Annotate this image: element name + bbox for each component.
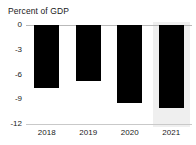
x-tick-label: 2019 (68, 128, 110, 138)
x-tick-label: 2020 (109, 128, 151, 138)
x-axis-tick-labels: 2018201920202021 (26, 128, 192, 142)
y-tick-label: 0 (0, 21, 22, 29)
y-tick-label: -6 (0, 71, 22, 79)
x-axis-line (26, 124, 192, 125)
y-tick-label: -9 (0, 95, 22, 103)
x-tick-label: 2021 (151, 128, 193, 138)
chart-container: Percent of GDP 0-3-6-9-12 20182019202020… (0, 0, 196, 145)
chart-title: Percent of GDP (8, 6, 69, 16)
y-axis-tick-labels: 0-3-6-9-12 (26, 25, 192, 124)
y-tick-label: -3 (0, 46, 22, 54)
x-tick-label: 2018 (26, 128, 68, 138)
y-tick-label: -12 (0, 120, 22, 128)
